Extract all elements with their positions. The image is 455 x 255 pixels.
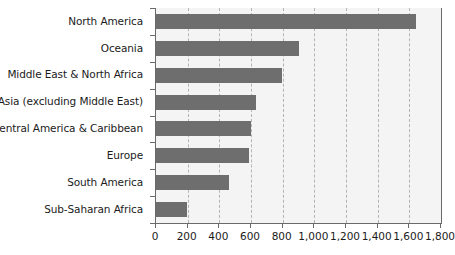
x-axis-tick-marks — [155, 224, 441, 228]
plot-area — [155, 8, 442, 224]
bar[interactable] — [156, 41, 299, 56]
bar[interactable] — [156, 148, 249, 163]
x-axis-tick — [345, 224, 346, 228]
category-label: Asia (excluding Middle East) — [0, 89, 149, 116]
bar-slot — [156, 35, 441, 62]
x-axis-tick-label: 1,000 — [298, 229, 328, 243]
bar-slot — [156, 142, 441, 169]
bar-slot — [156, 62, 441, 89]
bar-slot — [156, 116, 441, 143]
x-axis-tick-label: 1,600 — [393, 229, 423, 243]
x-axis-tick-label: 200 — [177, 229, 197, 243]
x-axis-tick-label: 1,200 — [330, 229, 360, 243]
x-axis-tick-labels: 02004006008001,0001,2001,4001,6001,800 — [0, 229, 448, 247]
x-axis-tick — [155, 224, 156, 228]
x-axis-tick — [313, 224, 314, 228]
x-axis-tick — [218, 224, 219, 228]
bar-slot — [156, 169, 441, 196]
bar-slot — [156, 196, 441, 223]
category-label: Middle East & North Africa — [0, 62, 149, 89]
x-axis-tick-label: 1,400 — [362, 229, 392, 243]
x-axis-tick — [250, 224, 251, 228]
x-axis-tick — [440, 224, 441, 228]
bar[interactable] — [156, 175, 229, 190]
category-label: South America — [0, 169, 149, 196]
x-axis-tick-label: 400 — [208, 229, 228, 243]
x-axis-tick — [187, 224, 188, 228]
bar-slot — [156, 8, 441, 35]
bars-layer — [156, 8, 441, 223]
x-axis-tick-label: 600 — [240, 229, 260, 243]
bar[interactable] — [156, 202, 187, 217]
x-axis-tick-label: 0 — [152, 229, 159, 243]
x-axis-tick — [408, 224, 409, 228]
category-label: Oceania — [0, 35, 149, 62]
category-label: Central America & Caribbean — [0, 116, 149, 143]
x-axis-tick — [282, 224, 283, 228]
category-axis: North AmericaOceaniaMiddle East & North … — [0, 8, 149, 223]
bar[interactable] — [156, 14, 416, 29]
bar[interactable] — [156, 121, 251, 136]
bar[interactable] — [156, 95, 256, 110]
category-label: Sub-Saharan Africa — [0, 196, 149, 223]
x-axis-tick-label: 800 — [272, 229, 292, 243]
x-axis-tick-label: 1,800 — [425, 229, 455, 243]
bar[interactable] — [156, 68, 282, 83]
x-axis-tick — [377, 224, 378, 228]
category-label: North America — [0, 8, 149, 35]
bar-slot — [156, 89, 441, 116]
category-label: Europe — [0, 142, 149, 169]
